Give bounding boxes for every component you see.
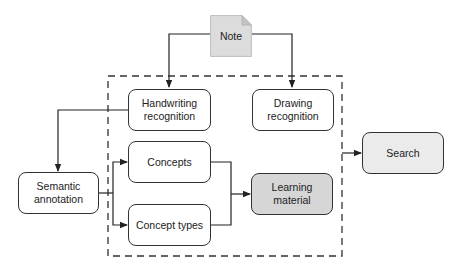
drawing-line2: recognition: [267, 110, 318, 122]
edge-semantic-concepts: [113, 162, 127, 193]
edge-note-drawing: [252, 34, 292, 87]
handwriting-recognition-node: Handwritingrecognition: [128, 89, 211, 131]
note-document: Note: [210, 15, 252, 57]
learning-material-label: Learning material: [252, 181, 332, 207]
edge-concepts-join: [211, 162, 231, 225]
handwriting-line2: recognition: [144, 110, 195, 122]
semantic-line1: Semantic: [37, 180, 81, 192]
learning-material-node: Learning material: [251, 173, 333, 215]
search-label: Search: [386, 147, 419, 160]
note-label: Note: [220, 30, 242, 42]
semantic-line2: annotation: [34, 193, 83, 205]
search-node: Search: [362, 132, 444, 174]
concepts-node: Concepts: [128, 141, 211, 183]
edge-semantic-concept-types: [113, 193, 127, 225]
concept-types-label: Concept types: [136, 219, 203, 232]
concepts-label: Concepts: [147, 156, 191, 169]
concept-types-node: Concept types: [128, 204, 211, 246]
drawing-recognition-node: Drawingrecognition: [252, 89, 334, 131]
handwriting-line1: Handwriting: [142, 97, 197, 109]
edge-note-handwriting: [169, 34, 210, 87]
semantic-annotation-node: Semanticannotation: [18, 172, 99, 214]
drawing-line1: Drawing: [274, 97, 313, 109]
